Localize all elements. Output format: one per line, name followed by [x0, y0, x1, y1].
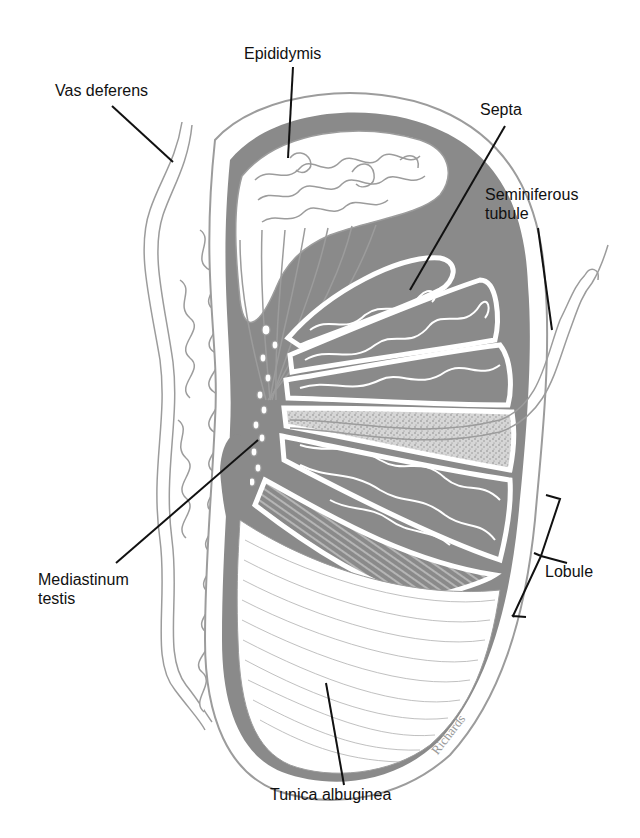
label-lobule: Lobule — [545, 562, 593, 581]
label-vas-deferens: Vas deferens — [55, 81, 148, 100]
leader-vas-deferens — [112, 106, 173, 162]
label-epididymis: Epididymis — [244, 44, 321, 63]
label-seminiferous-tubule: Seminiferous tubule — [485, 185, 578, 223]
testis-illustration — [0, 0, 640, 838]
label-tunica-albuginea: Tunica albuginea — [270, 785, 391, 804]
label-mediastinum-testis: Mediastinum testis — [38, 570, 129, 608]
label-septa: Septa — [480, 100, 522, 119]
